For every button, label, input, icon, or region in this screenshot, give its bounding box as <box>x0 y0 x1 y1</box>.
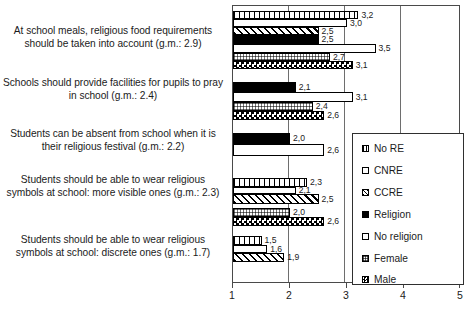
legend-item-label: CCRE <box>374 187 403 198</box>
legend-item-label: CNRE <box>374 165 403 176</box>
bar-value-label: 3,5 <box>379 44 391 53</box>
legend-item[interactable]: Female <box>362 253 408 264</box>
bar-value-label: 2,4 <box>316 102 328 111</box>
bar-value-label: 2,5 <box>322 195 334 204</box>
bar-no-religion <box>233 144 324 156</box>
bar-female <box>233 208 290 217</box>
bar-value-label: 2,6 <box>327 111 339 120</box>
legend-item-label: No RE <box>374 143 404 154</box>
legend-item-label: No religion <box>374 231 423 242</box>
bar-value-label: 2,0 <box>293 208 305 217</box>
legend-item[interactable]: CNRE <box>362 165 403 176</box>
bar-chart: At school meals, religious food requirem… <box>0 0 470 318</box>
bar-value-label: 3,2 <box>361 11 373 20</box>
bar-male <box>233 217 324 226</box>
axis-tick <box>346 283 347 288</box>
bar-no-re <box>233 236 262 245</box>
bar-value-label: 2,3 <box>310 178 322 187</box>
legend-item[interactable]: No religion <box>362 231 423 242</box>
bar-ccre <box>233 27 319 35</box>
legend-swatch-icon <box>362 189 369 196</box>
bar-value-label: 2,0 <box>293 134 305 143</box>
category-label-column: At school meals, religious food requirem… <box>0 0 228 283</box>
bar-value-label: 2,5 <box>322 35 334 44</box>
bar-no-religion <box>233 44 376 53</box>
bar-no-religion <box>233 92 353 102</box>
legend-item-label: Female <box>374 253 408 264</box>
chart-legend: No RECNRECCREReligionNo religionFemaleMa… <box>352 133 464 285</box>
legend-item-label: Religion <box>374 209 411 220</box>
legend-swatch-icon <box>362 255 369 262</box>
x-axis: 12345 <box>232 283 460 313</box>
category-label: Students can be absent from school when … <box>2 127 224 153</box>
legend-item[interactable]: No RE <box>362 143 404 154</box>
legend-swatch-icon <box>362 276 369 283</box>
bar-cnre <box>233 245 267 253</box>
category-label: Students should be able to wear religiou… <box>2 173 224 199</box>
bar-male <box>233 111 324 120</box>
bar-value-label: 3,0 <box>350 19 362 28</box>
legend-swatch-icon <box>362 145 369 152</box>
bar-cnre <box>233 187 296 194</box>
axis-tick-label: 3 <box>343 289 349 301</box>
legend-item-label: Male <box>374 274 396 285</box>
bar-value-label: 1,9 <box>287 253 299 262</box>
bar-value-label: 2,1 <box>299 83 311 92</box>
bar-religion <box>233 133 290 144</box>
axis-tick <box>232 283 233 288</box>
bar-value-label: 2,6 <box>327 146 339 155</box>
bar-no-re <box>233 11 358 19</box>
category-label: At school meals, religious food requirem… <box>2 24 224 50</box>
legend-item[interactable]: Religion <box>362 209 411 220</box>
bar-ccre <box>233 253 284 262</box>
bar-no-re <box>233 178 307 187</box>
bar-religion <box>233 35 319 44</box>
legend-swatch-icon <box>362 167 369 174</box>
category-label: Students should be able to wear religiou… <box>2 233 224 259</box>
legend-item[interactable]: CCRE <box>362 187 403 198</box>
axis-tick <box>289 283 290 288</box>
bar-value-label: 3,1 <box>356 93 368 102</box>
axis-tick-label: 2 <box>286 289 292 301</box>
bar-male <box>233 61 353 69</box>
bar-religion <box>233 82 296 92</box>
legend-item[interactable]: Male <box>362 274 396 285</box>
axis-tick-label: 4 <box>400 289 406 301</box>
bar-ccre <box>233 194 319 204</box>
legend-swatch-icon <box>362 233 369 240</box>
axis-tick-label: 1 <box>229 289 235 301</box>
legend-swatch-icon <box>362 211 369 218</box>
bar-value-label: 3,1 <box>356 61 368 70</box>
category-label: Schools should provide facilities for pu… <box>2 76 224 102</box>
bar-female <box>233 53 330 61</box>
axis-tick-label: 5 <box>457 289 463 301</box>
bar-female <box>233 102 313 111</box>
bar-value-label: 2,6 <box>327 217 339 226</box>
